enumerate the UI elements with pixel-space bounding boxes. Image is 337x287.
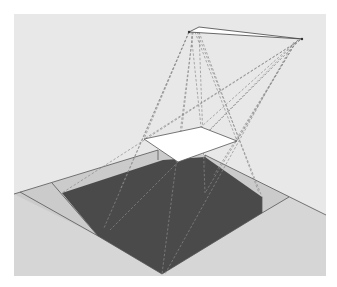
light-point-left [188,31,190,33]
light-point-right [301,38,303,40]
diagram-canvas [0,0,337,287]
